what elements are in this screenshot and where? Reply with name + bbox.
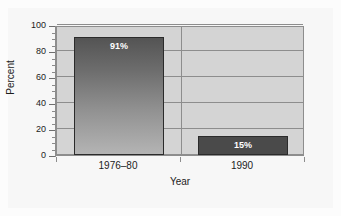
y-axis-title: Percent [5,48,16,108]
plot-area: 91%15% [56,26,304,156]
y-tick-label-20: 20 [20,125,46,134]
bar-0[interactable]: 91% [74,37,163,155]
y-tick-label-60: 60 [20,73,46,82]
y-tick-label-40: 40 [20,99,46,108]
x-tick-mark-0 [56,157,57,162]
gridline-y-100 [57,24,303,25]
x-tick-label-1: 1990 [192,160,292,171]
y-tick-label-80: 80 [20,47,46,56]
chart-figure: Percent 020406080100 91%15% 1976–801990 … [0,0,341,216]
y-tick-label-100: 100 [20,21,46,30]
y-tick-label-0: 0 [20,151,46,160]
x-tick-label-0: 1976–80 [68,160,168,171]
gridline-x-1 [181,27,182,155]
bar-1[interactable]: 15% [198,136,287,156]
x-axis-title: Year [56,176,304,187]
x-tick-mark-1 [180,157,181,162]
x-tick-mark-2 [304,157,305,162]
bar-value-label-0: 91% [75,41,162,51]
bar-value-label-1: 15% [199,140,286,150]
